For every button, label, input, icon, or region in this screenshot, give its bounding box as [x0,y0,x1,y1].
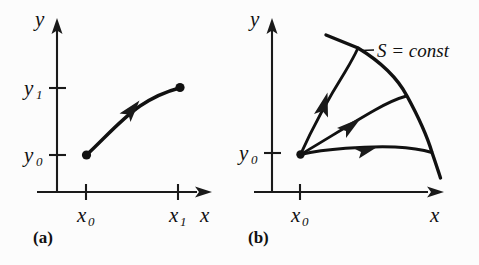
panel-a-y-axis-label: y [33,7,45,31]
panel-a-ytick-y0-base: y [22,143,34,167]
panel-a-ytick-y1: y 1 [22,76,66,102]
panel-a-xtick-x1-sub: 1 [180,214,187,229]
panel-b-ytick-y0-sub: 0 [251,152,258,167]
figure-container: y x y 1 y 0 x 0 x 1 [0,0,479,265]
panel-b: y x y 0 x 0 [237,7,450,247]
s-const-label: S = const [377,40,450,61]
panel-b-xtick-x0-sub: 0 [302,214,309,229]
panel-a-ytick-y1-sub: 1 [36,87,43,102]
panel-b-x-axis [254,187,444,198]
panel-b-ytick-y0: y 0 [237,141,281,167]
panel-b-middle-direction-arrow [337,118,361,138]
panel-a-end-marker [175,83,184,92]
panel-a-xtick-x1: x 1 [168,184,187,229]
panel-a-start-marker [82,150,91,159]
panel-a-ytick-y0-sub: 0 [36,154,43,169]
panel-a-xtick-x0: x 0 [76,184,95,229]
panel-a-ytick-y1-base: y [22,76,34,100]
panel-a-trajectory [82,83,185,160]
panel-b-leader-line [361,50,374,51]
panel-b-xtick-x0: x 0 [290,184,309,229]
panel-a-x-axis-label: x [199,203,210,227]
panel-a-y-axis [52,18,63,192]
panel-b-y-axis [267,18,278,192]
panel-b-trajectory-lower [301,147,433,159]
panel-b-origin-marker [296,150,304,158]
panel-a: y x y 1 y 0 x 0 x 1 [22,7,212,247]
panel-a-caption: (a) [33,228,53,247]
panel-a-ytick-y0: y 0 [22,143,66,169]
panel-b-lower-direction-arrow [353,147,378,159]
panel-b-xtick-x0-base: x [290,203,301,227]
panel-b-x-axis-label: x [429,203,440,227]
panel-a-xtick-x0-base: x [76,203,87,227]
panel-b-y-axis-label: y [248,7,260,31]
figure-svg: y x y 1 y 0 x 0 x 1 [0,0,479,265]
panel-a-x-axis [37,187,212,198]
panel-b-ytick-y0-base: y [237,141,249,165]
panel-a-xtick-x0-sub: 0 [88,214,95,229]
panel-a-xtick-x1-base: x [168,203,179,227]
panel-b-caption: (b) [248,228,269,247]
